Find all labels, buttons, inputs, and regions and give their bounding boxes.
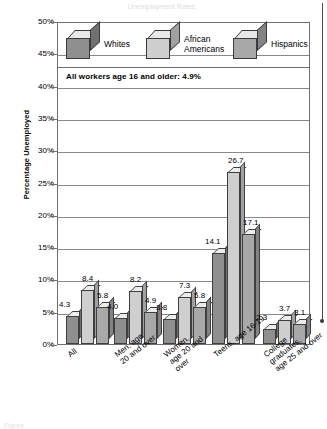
y-tick-label: 40% xyxy=(20,83,54,91)
bar-value-label: 5.8 xyxy=(97,292,108,300)
bar-value-label: 14.1 xyxy=(205,238,221,246)
bar-value-label: 5.8 xyxy=(194,292,205,300)
y-tick-mark xyxy=(50,184,57,185)
bar-side-face xyxy=(206,296,211,339)
bar-series-container: 4.38.45.84.08.24.93.87.35.814.126.717.12… xyxy=(58,23,309,344)
y-tick-label: 10% xyxy=(20,276,54,284)
y-tick-label: 30% xyxy=(20,147,54,155)
bar[interactable] xyxy=(81,290,94,344)
bar-group: 14.126.717.1 xyxy=(212,21,261,344)
bar[interactable] xyxy=(96,307,109,344)
bar-value-label: 17.1 xyxy=(243,219,259,227)
bar[interactable] xyxy=(163,319,176,344)
bar-front-face xyxy=(66,316,79,344)
bar[interactable] xyxy=(212,253,225,344)
bar-group: 4.38.45.8 xyxy=(66,21,115,344)
y-tick-mark xyxy=(50,248,57,249)
bar-value-label: 3.7 xyxy=(279,305,290,313)
y-tick-mark xyxy=(50,280,57,281)
y-tick-label: 5% xyxy=(20,309,54,317)
y-tick-label: 15% xyxy=(20,244,54,252)
bar-group: 4.08.24.9 xyxy=(114,21,163,344)
bar-group: 3.87.35.8 xyxy=(163,21,212,344)
bar[interactable] xyxy=(114,318,127,344)
annotation-pointer-line xyxy=(322,3,323,321)
bar-front-face xyxy=(81,290,94,344)
y-tick-label: 25% xyxy=(20,180,54,188)
x-category-label: All xyxy=(66,347,79,360)
bar-front-face xyxy=(212,253,225,344)
plot-area: Whites African Americans Hispanics All w… xyxy=(57,22,310,345)
bar-value-label: 26.7 xyxy=(228,157,244,165)
bar[interactable] xyxy=(227,172,240,344)
bar-front-face xyxy=(96,307,109,344)
figure-caption: Figure xyxy=(4,422,323,429)
y-tick-mark xyxy=(50,22,57,23)
y-tick-label: 0% xyxy=(20,341,54,349)
bar-value-label: 3.8 xyxy=(156,304,167,312)
y-tick-label: 20% xyxy=(20,212,54,220)
y-tick-mark xyxy=(50,54,57,55)
y-tick-label: 50% xyxy=(20,18,54,26)
bar-value-label: 4.3 xyxy=(59,301,70,309)
bar-front-face xyxy=(227,172,240,344)
bar-value-label: 4.0 xyxy=(107,303,118,311)
bar-value-label: 4.9 xyxy=(145,297,156,305)
y-tick-label: 45% xyxy=(20,50,54,58)
figure-top-title: Unemployment Rates xyxy=(0,0,323,14)
y-tick-mark xyxy=(50,151,57,152)
bar-value-label: 8.4 xyxy=(82,275,93,283)
y-tick-mark xyxy=(50,87,57,88)
y-tick-mark xyxy=(50,313,57,314)
y-tick-mark xyxy=(50,119,57,120)
bar-value-label: 8.2 xyxy=(130,276,141,284)
y-tick-label: 35% xyxy=(20,115,54,123)
bar-front-face xyxy=(163,319,176,344)
y-tick-mark xyxy=(50,345,57,346)
y-tick-mark xyxy=(50,216,57,217)
bar-front-face xyxy=(114,318,127,344)
bar[interactable] xyxy=(66,316,79,344)
bar-value-label: 7.3 xyxy=(179,282,190,290)
annotation-pointer-dot xyxy=(320,319,324,323)
bar-value-label: 3.1 xyxy=(294,309,305,317)
bar-group: 2.33.73.1 xyxy=(263,21,312,344)
